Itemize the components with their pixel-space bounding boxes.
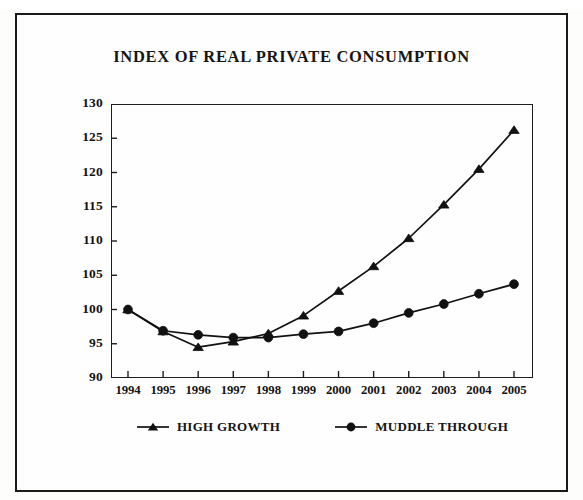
y-axis-tick-label: 90 [59,369,103,385]
legend-item[interactable]: HIGH GROWTH [136,419,280,435]
y-axis-tick-label: 130 [59,95,103,111]
y-axis-tick-label: 125 [59,129,103,145]
circle-marker-icon [124,305,133,314]
y-axis-tick-label: 110 [59,232,103,248]
circle-marker-icon [159,326,168,335]
legend-item[interactable]: MUDDLE THROUGH [334,419,508,435]
chart-legend: HIGH GROWTHMUDDLE THROUGH [111,413,533,441]
legend-item-label: HIGH GROWTH [177,419,280,435]
y-axis-tick-label: 115 [59,198,103,214]
triangle-marker-icon [136,420,170,434]
scanned-page: INDEX OF REAL PRIVATE CONSUMPTION 130125… [0,0,583,500]
circle-marker-icon [334,420,368,434]
line-chart-canvas [111,104,533,378]
x-axis-tick-label: 2005 [493,383,535,398]
circle-marker-icon [404,309,413,318]
circle-marker-icon [264,333,273,342]
circle-marker-icon [369,319,378,328]
y-axis-tick-label: 120 [59,164,103,180]
circle-marker-icon [299,330,308,339]
circle-marker-icon [510,280,519,289]
y-axis-tick-label: 95 [59,335,103,351]
y-axis-tick-label: 105 [59,266,103,282]
circle-marker-icon [439,300,448,309]
series-line [128,130,514,347]
circle-marker-icon [194,330,203,339]
triangle-marker-icon [509,126,519,134]
y-axis-tick-label: 100 [59,301,103,317]
series-line [128,284,514,337]
circle-marker-icon [229,333,238,342]
circle-marker-icon [334,327,343,336]
legend-item-label: MUDDLE THROUGH [375,419,508,435]
circle-marker-icon [475,289,484,298]
